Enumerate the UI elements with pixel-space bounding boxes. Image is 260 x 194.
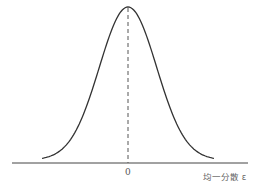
x-tick-zero: 0 xyxy=(125,168,131,177)
bell-curve-chart xyxy=(0,0,260,194)
x-axis-label: 均一分散 ε xyxy=(203,173,246,182)
